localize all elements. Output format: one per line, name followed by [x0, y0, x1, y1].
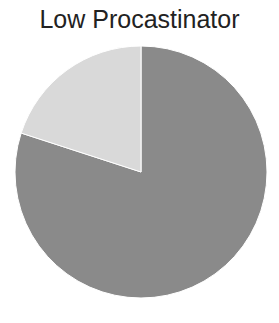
pie-slices	[15, 46, 267, 298]
pie-chart	[0, 0, 279, 323]
